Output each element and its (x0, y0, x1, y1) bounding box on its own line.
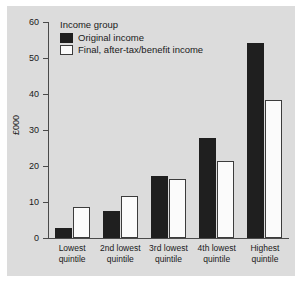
y-axis-tick (43, 238, 48, 239)
y-axis-tick-label: 40 (29, 90, 39, 99)
y-axis-tick-label: 20 (29, 162, 39, 171)
legend-item-label: Final, after-tax/benefit income (78, 44, 203, 55)
legend-swatch-final (60, 45, 73, 55)
legend-items: Original incomeFinal, after-tax/benefit … (60, 32, 203, 55)
legend-item: Original income (60, 32, 203, 43)
y-axis-tick-label: 0 (34, 234, 39, 243)
legend-item: Final, after-tax/benefit income (60, 44, 203, 55)
chart-figure: £000 0102030405060 Lowestquintile2nd low… (0, 0, 301, 281)
bar (217, 161, 234, 238)
x-axis-category-label: Highestquintile (237, 243, 293, 265)
y-axis-tick-label: 60 (29, 18, 39, 27)
y-axis-tick-label: 10 (29, 198, 39, 207)
y-axis-tick-label: 30 (29, 126, 39, 135)
y-axis-tick-label: 50 (29, 54, 39, 63)
x-axis-category-line: quintile (237, 254, 293, 265)
bar (55, 228, 72, 238)
bar (73, 207, 90, 238)
y-axis-label: £000 (11, 103, 21, 147)
bar (103, 211, 120, 238)
bar (121, 196, 138, 238)
bar (247, 43, 264, 238)
x-axis-line (48, 238, 289, 239)
bar (151, 176, 168, 238)
x-axis-category-line: Highest (237, 243, 293, 254)
chart-legend: Income group Original incomeFinal, after… (60, 19, 203, 55)
bar (169, 179, 186, 238)
legend-title: Income group (60, 19, 203, 30)
bar (265, 100, 282, 238)
legend-item-label: Original income (78, 32, 144, 43)
bar (199, 138, 216, 238)
legend-swatch-original (60, 33, 73, 43)
